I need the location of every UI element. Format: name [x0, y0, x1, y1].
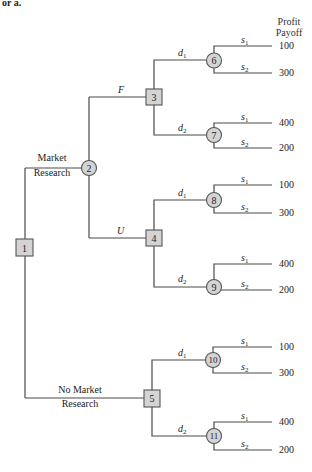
chance-node-8: 8: [207, 193, 222, 208]
svg-text:10: 10: [209, 355, 219, 365]
payoff-n7-s2: 200: [279, 142, 294, 153]
label-n7-s1: s1: [241, 111, 249, 124]
svg-text:7: 7: [212, 130, 217, 141]
label-n8-s1: s1: [241, 173, 249, 186]
cut-caption: or a.: [2, 0, 22, 8]
label-n8-s2: s2: [241, 201, 249, 214]
label-n3-d1: d1: [178, 47, 187, 60]
payoff-n10-s2: 300: [279, 367, 294, 378]
chance-node-9: 9: [207, 280, 222, 295]
label-n9-s1: s1: [241, 252, 249, 265]
label-U: U: [117, 225, 125, 236]
payoff-n6-s1: 100: [279, 40, 294, 51]
label-n5-d1: d1: [178, 347, 187, 360]
edge-n3-d1: [154, 60, 206, 89]
decision-tree: or a. Profit Payoff: [0, 0, 312, 472]
svg-text:2: 2: [87, 163, 92, 174]
payoff-n11-s2: 200: [279, 444, 294, 455]
payoff-n8-s2: 300: [279, 207, 294, 218]
label-n6-s1: s1: [241, 34, 249, 47]
label-research: Research: [34, 167, 71, 178]
edge-n5-d1: [152, 360, 205, 390]
label-n7-s2: s2: [241, 136, 249, 149]
chance-node-7: 7: [207, 128, 222, 143]
payoff-n11-s1: 400: [279, 416, 294, 427]
decision-node-3: 3: [146, 89, 162, 105]
chance-node-11: 11: [207, 429, 222, 444]
label-no-research: Research: [62, 398, 99, 409]
edge-n4-d1: [154, 200, 206, 230]
edge-n10-s1: [213, 347, 272, 353]
label-n6-s2: s2: [241, 61, 249, 74]
svg-text:6: 6: [212, 55, 217, 66]
svg-text:5: 5: [150, 393, 155, 404]
payoff-n9-s1: 400: [279, 258, 294, 269]
state-labels: s1 s2 s1 s2 s1 s2 s1 s2 s1 s2 s1 s2: [241, 34, 249, 451]
label-n4-d2: d2: [178, 273, 187, 286]
payoffs: 100 300 400 200 100 300 400 200 100 300 …: [279, 40, 294, 455]
label-n10-s1: s1: [241, 335, 249, 348]
label-no-market: No Market: [58, 384, 102, 395]
label-market: Market: [38, 152, 67, 163]
edge-n8-s1: [214, 185, 272, 193]
payoff-n9-s2: 200: [279, 284, 294, 295]
chance-node-6: 6: [207, 53, 222, 68]
chance-node-10: 10: [206, 353, 221, 368]
label-n5-d2: d2: [178, 423, 187, 436]
decision-node-4: 4: [146, 230, 162, 246]
label-F: F: [117, 84, 125, 95]
label-n11-s1: s1: [241, 410, 249, 423]
svg-text:1: 1: [22, 243, 27, 254]
svg-text:4: 4: [152, 233, 157, 244]
edge-n11-s1: [214, 422, 272, 429]
svg-text:9: 9: [212, 282, 217, 293]
payoff-n8-s1: 100: [279, 179, 294, 190]
svg-text:11: 11: [210, 431, 219, 441]
svg-text:3: 3: [152, 92, 157, 103]
header-payoff: Payoff: [276, 27, 303, 38]
edge-n6-s1: [214, 46, 272, 53]
label-n3-d2: d2: [178, 122, 187, 135]
decision-node-1: 1: [16, 239, 33, 256]
label-n11-s2: s2: [241, 438, 249, 451]
label-n9-s2: s2: [241, 278, 249, 291]
payoff-n10-s1: 100: [279, 341, 294, 352]
label-n10-s2: s2: [241, 361, 249, 374]
payoff-n7-s1: 400: [279, 117, 294, 128]
decision-node-5: 5: [144, 390, 160, 407]
chance-node-2: 2: [82, 161, 97, 176]
label-n4-d1: d1: [178, 187, 187, 200]
edge-n7-s1: [214, 123, 272, 128]
header-profit: Profit: [278, 16, 301, 27]
svg-text:8: 8: [212, 195, 217, 206]
payoff-n6-s2: 300: [279, 67, 294, 78]
edge-n9-s2: [214, 290, 272, 294]
